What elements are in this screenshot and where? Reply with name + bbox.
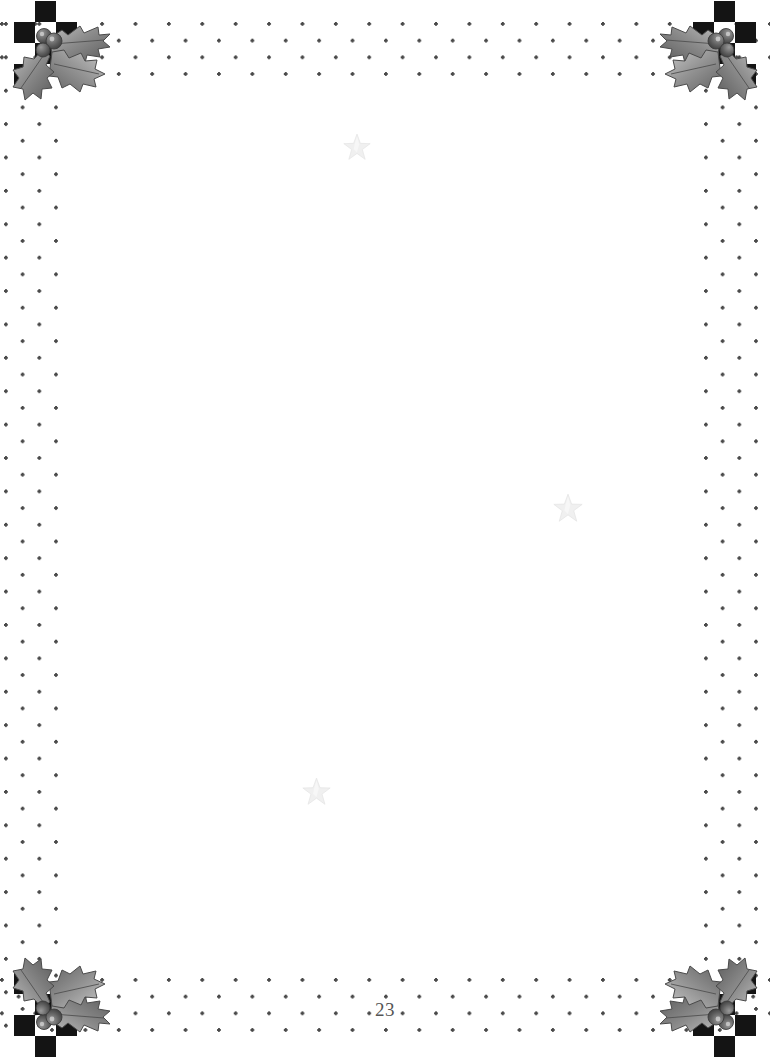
- corner-ornament-top-right: [650, 0, 770, 110]
- holly-sprig-icon: [652, 8, 764, 108]
- border-dots-left: [4, 22, 62, 1040]
- page-number: 23: [0, 999, 770, 1021]
- border-dots-right: [704, 22, 762, 1040]
- content-area: [66, 88, 704, 974]
- corner-ornament-top-left: [0, 0, 120, 110]
- stationery-page: 23: [0, 0, 770, 1058]
- holly-sprig-icon: [6, 8, 118, 108]
